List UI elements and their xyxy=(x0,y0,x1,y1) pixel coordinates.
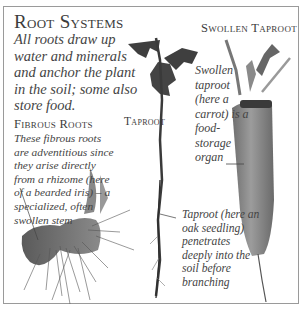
swollen-taproot-heading: Swollen Taproot xyxy=(201,21,297,36)
taproot-heading: Taproot xyxy=(124,115,165,127)
intro-text: All roots draw up water and minerals and… xyxy=(14,31,144,114)
page-title: Root Systems xyxy=(14,12,124,32)
fibrous-roots-caption: These fibrous roots are adventitious sin… xyxy=(14,132,114,227)
taproot-caption: Taproot (here an oak seedling) penetrate… xyxy=(182,208,262,290)
swollen-taproot-caption: Swollen taproot (here a carrot) is a foo… xyxy=(195,63,251,165)
fibrous-roots-heading: Fibrous Roots xyxy=(14,117,93,132)
